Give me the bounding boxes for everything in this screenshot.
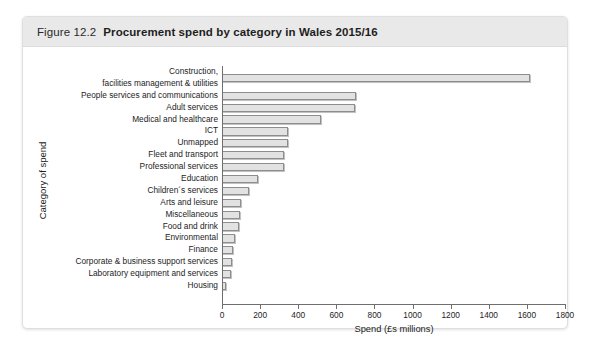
x-axis-tick-label: 1400 xyxy=(469,310,509,320)
bar-row xyxy=(222,244,565,256)
bar xyxy=(222,127,288,135)
x-axis-tick xyxy=(336,305,337,309)
bar-row xyxy=(222,66,565,90)
y-axis-tick-label: Medical and healthcare xyxy=(39,114,222,126)
bar xyxy=(222,234,235,242)
bar xyxy=(222,258,232,266)
x-axis-tick xyxy=(222,305,223,309)
bar xyxy=(222,211,240,219)
y-axis-tick-label: Food and drink xyxy=(39,221,222,233)
bar-series xyxy=(222,66,565,304)
y-axis-tick-label-line: Environmental xyxy=(39,232,218,244)
bar-row xyxy=(222,197,565,209)
y-axis-tick-label: Finance xyxy=(39,244,222,256)
y-axis-tick-label-line: facilities management & utilities xyxy=(39,78,218,90)
y-axis-tick-label-line: Children´s services xyxy=(39,185,218,197)
bar xyxy=(222,163,284,171)
y-axis-tick-label-line: Medical and healthcare xyxy=(39,114,218,126)
bar-row xyxy=(222,161,565,173)
x-axis-tick xyxy=(489,305,490,309)
x-axis-tick xyxy=(374,305,375,309)
y-axis-tick-label: Children´s services xyxy=(39,185,222,197)
bar-row xyxy=(222,209,565,221)
y-axis-tick-label-line: ICT xyxy=(39,125,218,137)
bar xyxy=(222,199,241,207)
bar-row xyxy=(222,232,565,244)
y-axis-tick-label: Miscellaneous xyxy=(39,209,222,221)
y-axis-tick-label-line: Miscellaneous xyxy=(39,209,218,221)
y-axis-tick-labels: Construction,facilities management & uti… xyxy=(39,66,222,292)
x-axis-tick xyxy=(413,305,414,309)
y-axis-tick-label-line: Food and drink xyxy=(39,221,218,233)
bar-row xyxy=(222,221,565,233)
y-axis-tick-label: Professional services xyxy=(39,161,222,173)
bar-row xyxy=(222,268,565,280)
y-axis-tick-label: Fleet and transport xyxy=(39,149,222,161)
x-axis-tick xyxy=(451,305,452,309)
bar-row xyxy=(222,137,565,149)
bar xyxy=(222,115,321,123)
y-axis-tick-label: Unmapped xyxy=(39,137,222,149)
figure-container: Figure 12.2 Procurement spend by categor… xyxy=(22,16,568,329)
figure-title: Procurement spend by category in Wales 2… xyxy=(96,26,378,38)
x-axis-tick-label: 600 xyxy=(316,310,356,320)
screenshot-root: Figure 12.2 Procurement spend by categor… xyxy=(0,0,590,344)
x-axis-tick-label: 1800 xyxy=(545,310,585,320)
figure-number: Figure 12.2 xyxy=(23,26,96,38)
x-axis-tick-label: 1200 xyxy=(431,310,471,320)
y-axis-tick-label-line: People services and communications xyxy=(39,90,218,102)
bar xyxy=(222,92,356,100)
x-axis-tick xyxy=(527,305,528,309)
x-axis-tick-label: 400 xyxy=(278,310,318,320)
y-axis-tick-label-line: Professional services xyxy=(39,161,218,173)
bar xyxy=(222,175,258,183)
y-axis-tick-label: Environmental xyxy=(39,232,222,244)
y-axis-tick-label: Adult services xyxy=(39,102,222,114)
y-axis-tick-label: Arts and leisure xyxy=(39,197,222,209)
bar-row xyxy=(222,256,565,268)
y-axis-tick-label-line: Housing xyxy=(39,280,218,292)
x-axis-tick-label: 0 xyxy=(202,310,242,320)
bar-row xyxy=(222,114,565,126)
y-axis-tick-label-line: Education xyxy=(39,173,218,185)
bar xyxy=(222,104,355,112)
y-axis-tick-label-line: Adult services xyxy=(39,102,218,114)
bar xyxy=(222,270,231,278)
x-axis-label: Spend (£s millions) xyxy=(222,324,566,334)
y-axis-tick-label: Corporate & business support services xyxy=(39,256,222,268)
y-axis-tick-label: ICT xyxy=(39,125,222,137)
figure-caption-bar: Figure 12.2 Procurement spend by categor… xyxy=(23,17,567,47)
bar-row xyxy=(222,280,565,292)
y-axis-tick-label-line: Arts and leisure xyxy=(39,197,218,209)
bar xyxy=(222,151,284,159)
x-axis-tick xyxy=(565,305,566,309)
bar xyxy=(222,187,249,195)
y-axis-tick-label-line: Finance xyxy=(39,244,218,256)
bar-row xyxy=(222,90,565,102)
y-axis-tick-label-line: Corporate & business support services xyxy=(39,256,218,268)
plot-area: Category of spend Construction,facilitie… xyxy=(23,47,567,330)
x-axis-tick-label: 200 xyxy=(240,310,280,320)
bar-row xyxy=(222,125,565,137)
bar xyxy=(222,246,233,254)
y-axis-tick-label-line: Fleet and transport xyxy=(39,149,218,161)
bar xyxy=(222,139,288,147)
y-axis-line xyxy=(222,66,223,305)
bar-row xyxy=(222,185,565,197)
y-axis-tick-label: Construction,facilities management & uti… xyxy=(39,66,222,90)
y-axis-tick-label: People services and communications xyxy=(39,90,222,102)
x-axis-tick-label: 1000 xyxy=(393,310,433,320)
bar xyxy=(222,74,530,82)
y-axis-tick-label: Laboratory equipment and services xyxy=(39,268,222,280)
bar xyxy=(222,222,239,230)
x-axis-tick xyxy=(260,305,261,309)
y-axis-tick-label-line: Construction, xyxy=(39,66,218,78)
y-axis-tick-label-line: Laboratory equipment and services xyxy=(39,268,218,280)
bar-row xyxy=(222,149,565,161)
bar-row xyxy=(222,102,565,114)
y-axis-tick-label: Education xyxy=(39,173,222,185)
bar-row xyxy=(222,173,565,185)
x-axis-tick xyxy=(298,305,299,309)
y-axis-tick-label-line: Unmapped xyxy=(39,137,218,149)
x-axis-line xyxy=(222,304,566,305)
